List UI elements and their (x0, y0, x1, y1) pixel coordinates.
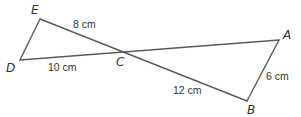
measurement-CB: 12 cm (173, 84, 202, 96)
vertex-label-D: D (6, 61, 15, 75)
vertex-label-C: C (116, 55, 125, 69)
segment-EB (40, 19, 247, 101)
segment-DA (20, 40, 279, 60)
measurement-EC: 8 cm (73, 18, 96, 30)
measurement-AB: 6 cm (266, 70, 289, 82)
measurement-DC: 10 cm (48, 61, 77, 73)
crossed-triangles-diagram: E D C A B 8 cm 10 cm 12 cm 6 cm (0, 0, 301, 117)
vertex-label-A: A (282, 28, 291, 42)
vertex-label-B: B (247, 103, 255, 117)
segment-ED (20, 19, 40, 60)
vertex-label-E: E (31, 3, 39, 17)
